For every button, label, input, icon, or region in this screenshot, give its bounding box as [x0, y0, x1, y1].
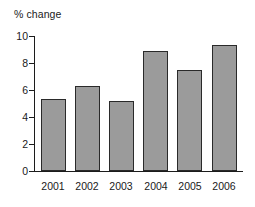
x-tick-label: 2006: [207, 181, 241, 192]
y-tick-mark: [29, 171, 35, 172]
bar: [177, 70, 202, 171]
plot-area: 0246810 200120022003200420052006: [0, 0, 255, 207]
x-tick-label: 2005: [173, 181, 207, 192]
y-tick-label: 2: [2, 139, 28, 149]
y-tick-label: 4: [2, 112, 28, 122]
y-tick-label: 6: [2, 85, 28, 95]
x-tick-label: 2002: [70, 181, 104, 192]
bar: [75, 86, 100, 171]
bar: [41, 99, 66, 171]
bar: [109, 101, 134, 171]
bar: [212, 45, 237, 171]
y-axis-line: [34, 36, 35, 172]
x-tick-label: 2003: [104, 181, 138, 192]
y-tick-mark: [29, 144, 35, 145]
y-tick-mark: [29, 117, 35, 118]
y-tick-label: 10: [2, 31, 28, 41]
x-tick-label: 2004: [139, 181, 173, 192]
bar-chart: % change 0246810 20012002200320042005200…: [0, 0, 255, 207]
y-tick-mark: [29, 63, 35, 64]
y-tick-mark: [29, 90, 35, 91]
x-axis-line: [34, 171, 243, 172]
y-tick-mark: [29, 36, 35, 37]
x-tick-label: 2001: [36, 181, 70, 192]
bar: [143, 51, 168, 171]
y-tick-label: 0: [2, 166, 28, 176]
y-tick-label: 8: [2, 58, 28, 68]
